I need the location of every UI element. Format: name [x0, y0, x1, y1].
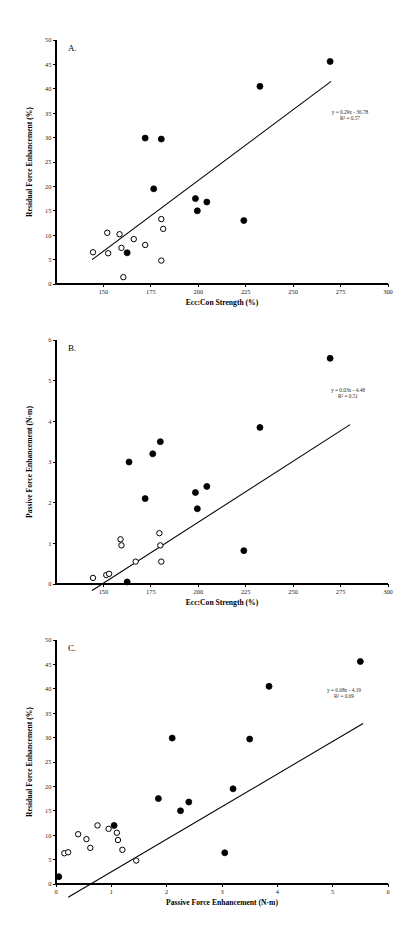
- y-tick-label: 45: [45, 661, 51, 668]
- data-point-open: [88, 845, 93, 850]
- data-point-open: [157, 530, 162, 535]
- data-point-filled: [194, 506, 200, 512]
- data-point-filled: [142, 135, 148, 141]
- data-point-filled: [150, 451, 156, 457]
- data-point-open: [120, 847, 125, 852]
- x-tick-label: 250: [288, 588, 298, 595]
- y-tick-label: 15: [45, 207, 51, 214]
- y-tick-label: 10: [45, 832, 51, 839]
- y-tick-label: 0: [48, 280, 51, 287]
- y-tick-label: 45: [45, 61, 51, 68]
- data-point-open: [159, 216, 164, 221]
- data-point-filled: [56, 874, 62, 880]
- y-tick-label: 30: [45, 134, 51, 141]
- scatter-plot-b: 0123456150175200225250275300Ecc:Con Stre…: [0, 322, 405, 622]
- y-axis-title: Residual Force Enhancement (%): [25, 707, 34, 817]
- x-tick-label: 225: [241, 288, 251, 295]
- data-point-filled: [155, 796, 161, 802]
- x-tick-label: 175: [146, 288, 156, 295]
- data-point-open: [105, 230, 110, 235]
- x-tick-label: 300: [383, 588, 393, 595]
- x-tick-label: 200: [193, 288, 203, 295]
- data-point-open: [84, 836, 89, 841]
- data-point-open: [90, 250, 95, 255]
- data-point-filled: [247, 736, 253, 742]
- data-point-filled: [142, 496, 148, 502]
- data-point-filled: [222, 850, 228, 856]
- y-tick-label: 20: [45, 183, 51, 190]
- regression-r2-label: R² = 0.69: [334, 693, 354, 699]
- x-axis-title: Ecc:Con Strength (%): [186, 298, 259, 307]
- data-point-filled: [327, 58, 333, 64]
- y-tick-label: 6: [48, 336, 51, 343]
- data-point-filled: [157, 439, 163, 445]
- data-point-filled: [192, 490, 198, 496]
- y-tick-label: 50: [45, 36, 51, 43]
- data-point-open: [131, 236, 136, 241]
- data-point-open: [90, 575, 95, 580]
- panel-letter: A.: [68, 43, 77, 53]
- x-tick-label: 200: [193, 588, 203, 595]
- regression-r2-label: R² = 0.57: [340, 115, 360, 121]
- data-point-open: [121, 274, 126, 279]
- x-tick-label: 175: [146, 588, 156, 595]
- x-tick-label: 150: [99, 588, 109, 595]
- x-tick-label: 3: [220, 888, 223, 895]
- x-tick-label: 0: [54, 888, 57, 895]
- data-point-open: [159, 559, 164, 564]
- scatter-plot-c: 051015202530354045500123456Passive Force…: [0, 622, 405, 942]
- regression-line: [92, 425, 350, 591]
- data-point-open: [105, 251, 110, 256]
- x-tick-label: 275: [336, 588, 346, 595]
- data-point-open: [114, 830, 119, 835]
- x-tick-label: 2: [165, 888, 168, 895]
- y-tick-label: 35: [45, 110, 51, 117]
- data-point-filled: [357, 658, 363, 664]
- y-tick-label: 2: [48, 499, 51, 506]
- x-tick-label: 6: [386, 888, 389, 895]
- data-point-filled: [266, 683, 272, 689]
- data-point-open: [106, 826, 111, 831]
- data-point-open: [118, 537, 123, 542]
- data-point-open: [65, 850, 70, 855]
- data-point-open: [142, 242, 147, 247]
- data-point-open: [134, 858, 139, 863]
- y-tick-label: 15: [45, 807, 51, 814]
- data-point-filled: [230, 786, 236, 792]
- y-tick-label: 50: [45, 636, 51, 643]
- regression-line: [68, 724, 363, 898]
- data-point-open: [106, 571, 111, 576]
- data-point-filled: [158, 136, 164, 142]
- data-point-filled: [126, 459, 132, 465]
- data-point-filled: [204, 199, 210, 205]
- data-point-open: [95, 823, 100, 828]
- panel-b: 0123456150175200225250275300Ecc:Con Stre…: [0, 322, 405, 622]
- data-point-open: [158, 543, 163, 548]
- x-tick-label: 300: [383, 288, 393, 295]
- data-point-filled: [241, 548, 247, 554]
- x-tick-label: 4: [276, 888, 280, 895]
- data-point-filled: [151, 186, 157, 192]
- regression-line: [92, 81, 331, 259]
- data-point-filled: [204, 483, 210, 489]
- data-point-filled: [169, 735, 175, 741]
- y-tick-label: 35: [45, 710, 51, 717]
- y-tick-label: 5: [48, 377, 51, 384]
- y-tick-label: 3: [48, 458, 51, 465]
- y-tick-label: 40: [45, 85, 51, 92]
- x-tick-label: 150: [99, 288, 109, 295]
- data-point-filled: [192, 196, 198, 202]
- data-point-open: [160, 226, 165, 231]
- regression-r2-label: R² = 0.51: [338, 393, 358, 399]
- data-point-filled: [178, 808, 184, 814]
- regression-equation-label: y = 0.29x - 36.78: [332, 109, 369, 115]
- y-tick-label: 20: [45, 783, 51, 790]
- y-tick-label: 25: [45, 758, 51, 765]
- data-point-filled: [111, 822, 117, 828]
- regression-equation-label: y = 0.03x - 4.48: [331, 387, 365, 393]
- y-axis-title: Passive Force Enhancement (N·m): [25, 406, 34, 518]
- data-point-filled: [257, 424, 263, 430]
- y-tick-label: 40: [45, 685, 51, 692]
- figure-container: 0510152025303540455015017520022525027530…: [0, 0, 405, 942]
- data-point-filled: [257, 83, 263, 89]
